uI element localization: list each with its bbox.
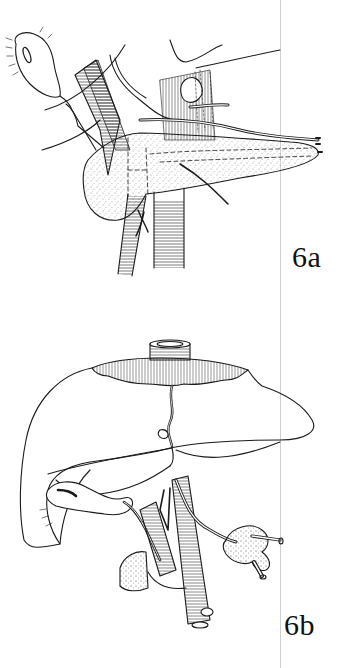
figure-6b: 6b xyxy=(0,330,340,668)
diaphragm-cuff-icon xyxy=(92,358,248,386)
pancreas-icon xyxy=(83,133,318,220)
duodenum-icon xyxy=(223,526,269,571)
anatomy-6a-illustration xyxy=(0,0,340,310)
aorta-icon xyxy=(172,476,210,624)
figure-label-6a: 6a xyxy=(292,240,321,274)
liver-icon xyxy=(20,368,313,547)
gallbladder-icon xyxy=(6,27,60,97)
figure-6a: 6a xyxy=(0,0,340,310)
kidney-fragment-icon xyxy=(120,552,148,591)
figure-label-6b: 6b xyxy=(284,608,315,642)
gallbladder-icon xyxy=(46,482,132,515)
